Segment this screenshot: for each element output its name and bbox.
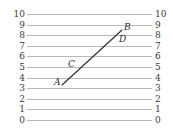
tick-label-right-10: 10 — [155, 10, 166, 19]
gridline-3 — [27, 88, 152, 89]
gridline-9 — [27, 25, 152, 26]
figure-canvas: 10 9 8 7 6 5 4 3 2 1 0 10 9 8 7 6 5 4 3 … — [0, 0, 173, 134]
tick-label-left-5: 5 — [3, 63, 25, 72]
gridline-6 — [27, 56, 152, 57]
tick-label-left-8: 8 — [3, 31, 25, 40]
tick-label-left-7: 7 — [3, 42, 25, 51]
tick-label-left-0: 0 — [3, 116, 25, 125]
tick-label-left-1: 1 — [3, 105, 25, 114]
gridline-5 — [27, 67, 152, 68]
tick-label-left-9: 9 — [3, 21, 25, 30]
gridline-2 — [27, 99, 152, 100]
gridline-10 — [27, 14, 152, 15]
tick-label-right-8: 8 — [155, 31, 161, 40]
gridline-7 — [27, 46, 152, 47]
point-label-b: B — [124, 23, 131, 32]
tick-label-right-3: 3 — [155, 84, 161, 93]
gridline-4 — [27, 78, 152, 79]
tick-label-left-6: 6 — [3, 52, 25, 61]
gridline-8 — [27, 35, 152, 36]
tick-label-left-3: 3 — [3, 84, 25, 93]
gridline-0 — [27, 120, 152, 121]
tick-label-right-9: 9 — [155, 21, 161, 30]
tick-label-left-10: 10 — [3, 10, 25, 19]
tick-label-right-1: 1 — [155, 105, 161, 114]
point-label-a: A — [54, 78, 61, 87]
tick-label-right-6: 6 — [155, 52, 161, 61]
point-label-c: C — [68, 60, 75, 69]
tick-label-left-4: 4 — [3, 74, 25, 83]
tick-label-left-2: 2 — [3, 95, 25, 104]
tick-label-right-5: 5 — [155, 63, 161, 72]
point-label-d: D — [119, 35, 126, 44]
tick-label-right-7: 7 — [155, 42, 161, 51]
gridline-1 — [27, 109, 152, 110]
tick-label-right-4: 4 — [155, 74, 161, 83]
tick-label-right-2: 2 — [155, 95, 161, 104]
tick-label-right-0: 0 — [155, 116, 161, 125]
